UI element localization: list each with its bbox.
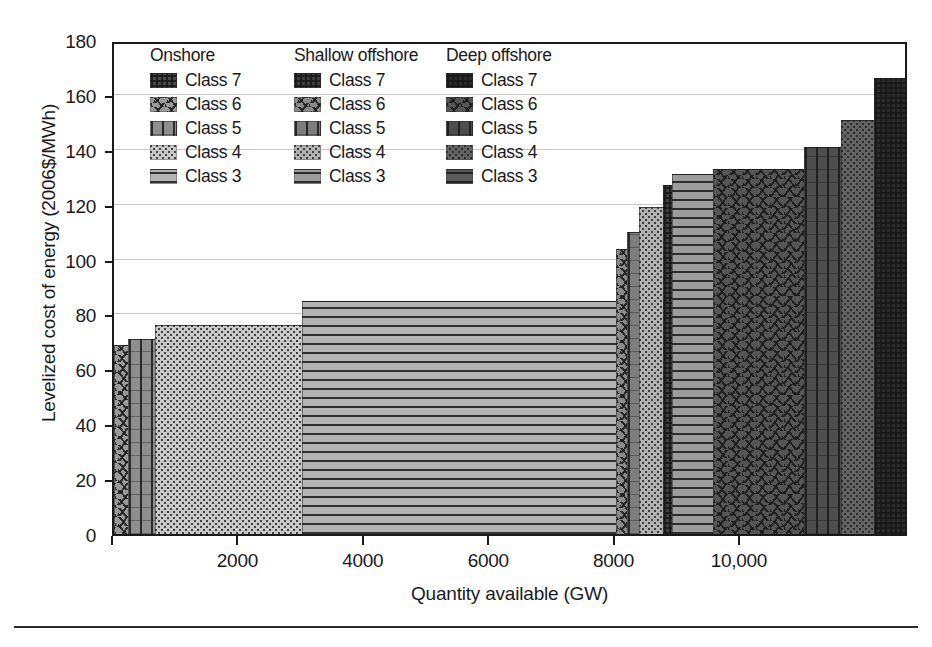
y-axis-tick-label: 120 xyxy=(30,197,96,216)
bar-segment xyxy=(804,147,842,534)
legend-swatch-icon xyxy=(446,97,473,112)
x-axis-tick-label: 2000 xyxy=(177,550,297,572)
legend-item[interactable]: Class 6 xyxy=(446,92,590,116)
bar-segment xyxy=(663,185,672,534)
legend-column-heading: Onshore xyxy=(150,44,294,66)
legend-item-label: Class 5 xyxy=(185,118,241,139)
y-axis-tick-label: 0 xyxy=(30,526,96,545)
x-axis-tick-mark xyxy=(613,536,615,545)
legend-swatch-icon xyxy=(150,169,177,184)
legend-swatch-icon xyxy=(294,121,321,136)
legend-column-onshore: OnshoreClass 7Class 6Class 5Class 4Class… xyxy=(150,44,294,188)
y-axis-tick-mark xyxy=(105,315,112,317)
y-axis-tick-mark xyxy=(105,425,112,427)
legend-item[interactable]: Class 6 xyxy=(150,92,294,116)
legend-swatch-icon xyxy=(294,169,321,184)
legend-swatch-icon xyxy=(446,145,473,160)
legend-item[interactable]: Class 6 xyxy=(294,92,446,116)
legend-item-label: Class 6 xyxy=(329,94,385,115)
y-axis-tick-mark xyxy=(105,151,112,153)
legend-swatch-icon xyxy=(446,121,473,136)
legend-item[interactable]: Class 4 xyxy=(294,140,446,164)
legend-swatch-icon xyxy=(150,145,177,160)
legend-item-label: Class 4 xyxy=(481,142,537,163)
legend-swatch-icon xyxy=(150,121,177,136)
bar-segment xyxy=(114,345,128,534)
bar-segment xyxy=(302,301,615,534)
legend-item-label: Class 3 xyxy=(329,166,385,187)
bar-segment xyxy=(713,169,803,534)
legend-item-label: Class 3 xyxy=(481,166,537,187)
legend-swatch-icon xyxy=(294,73,321,88)
legend-swatch-icon xyxy=(150,73,177,88)
x-axis-tick-mark xyxy=(236,536,238,545)
legend-swatch-icon xyxy=(446,169,473,184)
legend-item-label: Class 6 xyxy=(185,94,241,115)
legend-item[interactable]: Class 7 xyxy=(294,68,446,92)
legend-item-label: Class 7 xyxy=(185,70,241,91)
y-axis-tick-label: 140 xyxy=(30,142,96,161)
legend-item[interactable]: Class 4 xyxy=(150,140,294,164)
legend-item[interactable]: Class 5 xyxy=(150,116,294,140)
x-axis-tick-mark xyxy=(738,536,740,545)
y-axis-tick-mark xyxy=(105,96,112,98)
y-axis-tick-mark xyxy=(105,261,112,263)
legend-item-label: Class 3 xyxy=(185,166,241,187)
legend-item[interactable]: Class 4 xyxy=(446,140,590,164)
bar-segment xyxy=(155,325,302,534)
legend-item-label: Class 5 xyxy=(329,118,385,139)
footer-divider xyxy=(14,626,918,628)
bar-segment xyxy=(874,78,907,534)
legend-swatch-icon xyxy=(294,97,321,112)
legend-item-label: Class 4 xyxy=(185,142,241,163)
bar-segment xyxy=(639,207,663,534)
legend-swatch-icon xyxy=(446,73,473,88)
legend-item[interactable]: Class 7 xyxy=(150,68,294,92)
legend-item-label: Class 4 xyxy=(329,142,385,163)
legend: OnshoreClass 7Class 6Class 5Class 4Class… xyxy=(150,44,590,188)
bar-segment xyxy=(128,339,156,534)
legend-item[interactable]: Class 3 xyxy=(150,164,294,188)
y-axis-tick-label: 180 xyxy=(30,32,96,51)
legend-swatch-icon xyxy=(150,97,177,112)
legend-item-label: Class 6 xyxy=(481,94,537,115)
bar-segment xyxy=(627,232,640,534)
legend-item-label: Class 7 xyxy=(481,70,537,91)
y-axis-tick-label: 40 xyxy=(30,416,96,435)
figure-wind-supply-curve: Levelized cost of energy (2006$/MWh) 020… xyxy=(0,0,932,647)
y-axis-tick-label: 160 xyxy=(30,87,96,106)
y-axis-tick-mark xyxy=(105,206,112,208)
legend-swatch-icon xyxy=(294,145,321,160)
x-axis-tick-label: 8000 xyxy=(554,550,674,572)
x-axis-tick-mark xyxy=(487,536,489,545)
x-axis-tick-label: 6000 xyxy=(428,550,548,572)
bar-segment xyxy=(616,249,627,534)
legend-column-deep-offshore: Deep offshoreClass 7Class 6Class 5Class … xyxy=(446,44,590,188)
legend-item[interactable]: Class 5 xyxy=(446,116,590,140)
y-axis-tick-mark xyxy=(105,370,112,372)
y-axis-tick-mark xyxy=(105,480,112,482)
legend-item-label: Class 5 xyxy=(481,118,537,139)
y-axis-tick-label: 100 xyxy=(30,252,96,271)
legend-column-shallow-offshore: Shallow offshoreClass 7Class 6Class 5Cla… xyxy=(294,44,446,188)
legend-column-heading: Shallow offshore xyxy=(294,44,446,66)
legend-item-label: Class 7 xyxy=(329,70,385,91)
y-axis-tick-label: 80 xyxy=(30,306,96,325)
y-axis-tick-label: 60 xyxy=(30,361,96,380)
legend-item[interactable]: Class 3 xyxy=(294,164,446,188)
x-axis-tick-label: 4000 xyxy=(303,550,423,572)
legend-item[interactable]: Class 7 xyxy=(446,68,590,92)
legend-item[interactable]: Class 5 xyxy=(294,116,446,140)
legend-item[interactable]: Class 3 xyxy=(446,164,590,188)
y-axis-tick-label: 20 xyxy=(30,471,96,490)
x-axis-tick-mark-origin xyxy=(111,536,113,545)
bar-segment xyxy=(672,174,713,534)
x-axis-tick-mark xyxy=(362,536,364,545)
legend-column-heading: Deep offshore xyxy=(446,44,590,66)
x-axis-tick-label: 10,000 xyxy=(679,550,799,572)
bar-segment xyxy=(841,120,874,534)
x-axis-title: Quantity available (GW) xyxy=(112,583,907,605)
